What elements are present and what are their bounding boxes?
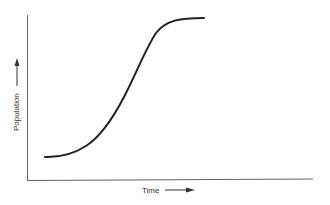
arrow-right-icon: [186, 188, 195, 193]
arrow-up-icon: [15, 58, 20, 66]
population-growth-chart: Population Time: [0, 0, 330, 205]
population-curve: [45, 18, 204, 157]
x-axis: [27, 179, 313, 181]
y-axis-label: Population: [12, 93, 21, 131]
x-axis-label: Time: [142, 186, 160, 195]
